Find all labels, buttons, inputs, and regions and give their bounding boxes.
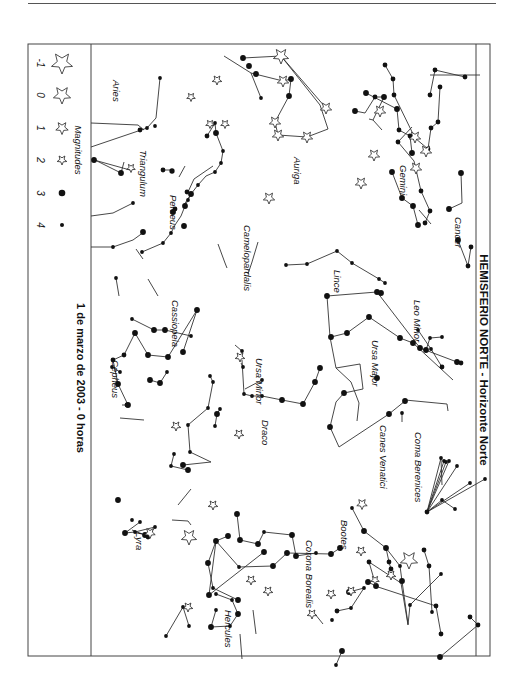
constellation-label: Auriga [292,156,303,184]
constellation-line [120,418,144,420]
constellation-line [166,607,189,636]
constellation-line [327,292,457,362]
star-dot [428,209,433,214]
star-dot [415,222,421,228]
star-dot [270,563,276,569]
constellation-label: Leo Minor [412,300,423,343]
star-dot [335,249,339,253]
star-icon [371,576,380,584]
star-dot [423,221,428,226]
constellation-line [336,364,363,393]
star-dot [349,606,353,610]
star-dot [300,401,306,407]
star-dot [440,365,445,370]
star-dot [408,603,412,607]
star-chart: AriesTriangulumPerseusCamelopardalisAuri… [0,0,517,693]
constellation-line [91,123,144,130]
star-icon [355,178,366,189]
star-dot [459,361,464,366]
star-dot [373,583,379,589]
star-icon [187,93,196,101]
constellation-label: Perseus [168,195,179,230]
star-dot [476,623,481,628]
star-dot [165,354,171,360]
star-dot [398,564,402,568]
legend-item: 0 [35,88,71,104]
star-dot [234,511,240,517]
star-dot [158,76,162,80]
star-dot [463,75,468,80]
star-dot [186,423,190,427]
star-icon [357,500,367,510]
star-icon [263,193,274,204]
star-dot [394,106,400,112]
constellation-label: Gemini [398,165,409,196]
constellation-line [183,376,213,465]
star-dot [284,550,290,556]
constellation-label: Lyra [134,532,145,550]
star-dot [122,530,128,536]
star-dot [365,579,371,585]
star-dot [237,537,243,543]
constellation-line [135,310,197,357]
constellation-line [178,489,191,505]
star-dot [469,245,474,250]
star-dot [339,648,345,654]
star-dot [434,604,439,609]
star-dot [118,170,124,176]
star-dot [409,150,415,156]
star-dot [305,262,309,266]
star-dot [205,134,210,139]
star-icon [246,576,256,585]
constellation-line [327,296,359,421]
constellation-line [405,400,448,411]
constellation-label: Aries [111,79,122,102]
constellation-line [91,78,160,147]
star-dot [410,203,416,209]
constellation-line [330,393,405,447]
star-dot [262,530,266,534]
star-icon [269,117,280,128]
star-dot [383,281,387,285]
star-dot [419,189,424,194]
star-dot [214,592,218,596]
constellation-line [91,232,144,247]
star-icon [234,430,244,439]
star-icon [235,353,245,362]
star-dot [161,168,166,173]
star-dot [130,317,134,321]
star-dot [130,518,134,522]
constellation-line [373,120,382,130]
star-dot [186,198,190,202]
star-dot [147,377,153,383]
star-icon [181,531,196,546]
star-dot [213,424,217,428]
star-dot [430,610,434,614]
star-dot [279,397,285,403]
star-dot [185,467,191,473]
star-dot [189,334,193,338]
star-dot [387,560,392,565]
star-dot [208,374,212,378]
star-dot [161,241,165,245]
star-dot [253,71,259,77]
star-dot [483,477,487,481]
star-icon [183,603,193,612]
star-dot [455,464,459,468]
star-dot [427,564,432,569]
constellation-line [275,56,328,137]
star-dot [334,663,338,667]
star-icon [356,547,366,556]
star-icon [56,123,68,135]
star-dot [162,327,168,333]
legend-magnitude: 2 [35,156,46,163]
star-dot [352,108,358,114]
star-dot [169,231,173,235]
star-dot [211,586,215,590]
constellation-label: Hercules [223,610,234,648]
star-dot [373,95,378,100]
star-icon [301,132,312,143]
star-dot [125,403,130,408]
star-dot [185,190,190,195]
legend-magnitude: 0 [35,92,46,98]
